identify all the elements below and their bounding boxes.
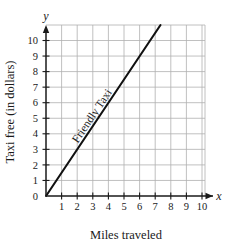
x-tick-label: 6 — [137, 201, 142, 212]
y-tick-label: 4 — [33, 128, 39, 139]
x-tick-label: 2 — [75, 201, 80, 212]
y-tick-label: 5 — [33, 113, 38, 124]
x-tick-label: 4 — [106, 201, 112, 212]
chart-canvas: 1 2 3 4 5 6 7 8 9 10 0 1 2 3 4 5 6 7 8 9… — [0, 0, 236, 247]
x-tick-label: 8 — [168, 201, 173, 212]
taxi-fare-line-chart: 1 2 3 4 5 6 7 8 9 10 0 1 2 3 4 5 6 7 8 9… — [0, 0, 236, 247]
y-tick-label: 0 — [33, 191, 38, 202]
y-tick-label: 8 — [33, 66, 38, 77]
x-axis-title: Miles traveled — [90, 228, 163, 242]
y-tick-label: 6 — [33, 97, 38, 108]
y-axis-letter: y — [42, 9, 49, 23]
x-tick-label: 9 — [184, 201, 189, 212]
x-axis-letter: x — [215, 189, 222, 203]
y-tick-label: 3 — [33, 144, 38, 155]
y-tick-label: 10 — [28, 35, 39, 46]
x-tick-label: 7 — [153, 201, 158, 212]
x-tick-label: 5 — [121, 201, 126, 212]
x-tick-label: 3 — [90, 201, 95, 212]
y-tick-label: 9 — [33, 51, 38, 62]
x-tick-label: 1 — [59, 201, 64, 212]
y-tick-label: 1 — [33, 175, 38, 186]
y-axis-title: Taxi free (in dollars) — [3, 61, 17, 164]
y-tick-label: 2 — [33, 160, 38, 171]
x-tick-label: 10 — [197, 201, 208, 212]
y-tick-label: 7 — [33, 82, 38, 93]
